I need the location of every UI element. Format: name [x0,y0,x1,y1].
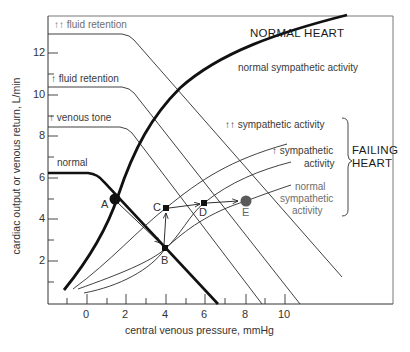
y-tick-label: 6 [39,171,45,183]
label-normal-heart: NORMAL HEART [250,27,344,39]
x-tick-label: 4 [162,308,168,320]
label-venous-tone: ↑ venous tone [49,112,111,124]
point-c-marker [163,205,169,211]
label-failing-sympathetic: sympathetic [280,193,333,205]
label-fluid-retention: ↑ fluid retention [51,73,119,85]
y-axis-label: cardiac output or venous return, L/min [10,66,22,266]
x-tick-label: 2 [122,308,128,320]
label-single-sympathetic: ↑ sympathetic [272,145,333,157]
x-tick-label: 0 [83,308,89,320]
y-tick-label: 4 [39,212,45,224]
point-a-label: A [101,198,108,210]
arrow-c-to-d [169,204,200,208]
point-d-label: D [199,206,207,218]
failing-heart-brace [342,118,352,216]
plot-svg [0,0,410,352]
point-b-label: B [161,254,168,266]
label-heart: HEART [352,157,392,169]
label-failing-activity: activity [292,205,323,217]
arrow-d-to-e [207,201,238,203]
label-failing: FAILING [352,144,398,156]
label-normal-venous-return: normal [57,157,88,169]
label-double-fluid-retention: ↑↑ fluid retention [54,19,127,31]
label-normal-sympathetic-activity: normal sympathetic activity [238,62,358,74]
point-b-marker [162,245,168,251]
x-tick-label: 6 [201,308,207,320]
point-c-label: C [153,201,161,213]
point-e-label: E [242,206,249,218]
point-e-marker [241,196,252,207]
y-tick-label: 12 [33,46,45,58]
failing-heart-curves [73,144,291,293]
x-axis-ticks [67,294,285,304]
vr-curve-normal [48,173,218,304]
cardiac-venous-return-diagram: 12 10 8 6 4 2 0 2 4 6 8 10 cardiac outpu… [0,0,410,352]
label-failing-normal: normal [295,181,326,193]
x-axis-label: central venous pressure, mmHg [125,324,274,336]
x-tick-label: 10 [278,308,290,320]
arrow-b-to-c [164,213,166,245]
y-tick-label: 10 [33,88,45,100]
cardiac-curve-double-symp [73,144,287,289]
label-single-sympathetic-activity: activity [304,158,335,170]
label-double-sympathetic-activity: ↑↑ sympathetic activity [225,119,324,131]
point-a-marker [110,194,121,205]
y-tick-label: 8 [39,129,45,141]
x-tick-label: 8 [242,308,248,320]
y-tick-label: 2 [39,254,45,266]
